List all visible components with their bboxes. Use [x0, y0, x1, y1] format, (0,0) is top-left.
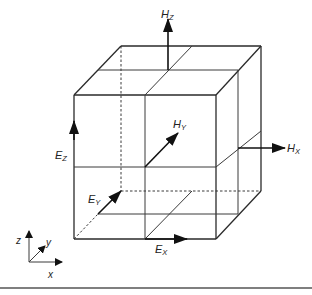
x-axis-label: x — [47, 269, 54, 280]
ez-label: EZ — [55, 149, 67, 163]
cube-right-face — [216, 46, 261, 239]
ey-arrow — [98, 191, 121, 214]
axis-triad: z y x — [15, 231, 62, 280]
left-bottom-diagonal-edge-lower — [74, 214, 98, 239]
hy-label: HY — [173, 118, 187, 132]
cube-bottom-face — [98, 191, 238, 239]
y-axis-label: y — [45, 237, 52, 248]
yee-cell-diagram: HZ HY HX EZ EY EX z y x — [0, 0, 312, 295]
ey-label: EY — [88, 193, 101, 207]
hx-label: HX — [287, 142, 301, 156]
ex-label: EX — [155, 243, 168, 257]
y-axis-arrow — [29, 246, 45, 262]
z-axis-label: z — [15, 235, 21, 246]
hy-arrow — [145, 133, 178, 167]
hz-label: HZ — [161, 8, 174, 22]
